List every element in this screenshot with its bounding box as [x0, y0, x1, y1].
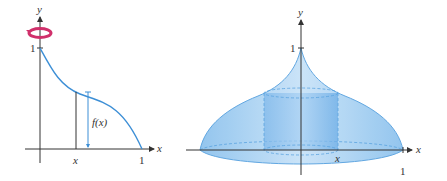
right-x-tick-x: x [334, 152, 340, 164]
right-x-tick-1: 1 [400, 165, 406, 177]
left-x-tick-1: 1 [139, 154, 145, 166]
right-x-label: x [415, 143, 421, 155]
fx-height-bracket [85, 92, 91, 148]
right-y-label: y [297, 6, 303, 18]
left-y-tick-1: 1 [30, 42, 36, 54]
left-y-label: y [36, 3, 42, 15]
diagram-canvas: y x 1 x 1 f(x) y x 1 x 1 [0, 0, 447, 181]
function-curve [40, 48, 142, 149]
left-graph: y x 1 x 1 f(x) [25, 3, 162, 166]
rotation-arrow-icon [26, 29, 51, 38]
fx-label: f(x) [92, 116, 108, 129]
right-y-tick-1: 1 [290, 42, 296, 54]
right-solid: y x 1 x 1 [186, 6, 421, 177]
left-x-tick-x: x [72, 154, 78, 166]
left-x-label: x [156, 142, 162, 154]
